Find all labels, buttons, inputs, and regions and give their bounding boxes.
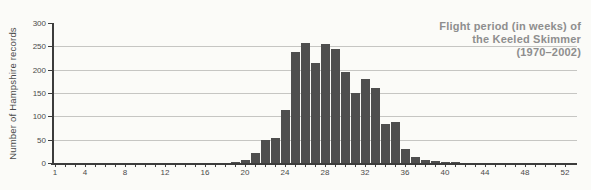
x-tick-13 bbox=[175, 165, 176, 168]
x-tick-15 bbox=[195, 165, 196, 168]
y-tick-200 bbox=[48, 70, 52, 71]
x-tick-label-32: 32 bbox=[355, 168, 375, 177]
x-tick-label-28: 28 bbox=[315, 168, 335, 177]
x-tick-44 bbox=[485, 165, 486, 168]
y-tick-300 bbox=[48, 23, 52, 24]
x-tick-14 bbox=[185, 165, 186, 168]
y-axis-title: Number of Hampshire records bbox=[7, 24, 20, 164]
x-tick-label-48: 48 bbox=[515, 168, 535, 177]
x-tick-43 bbox=[475, 165, 476, 168]
x-tick-8 bbox=[125, 165, 126, 168]
bar-week-31 bbox=[351, 93, 360, 163]
x-tick-46 bbox=[505, 165, 506, 168]
x-tick-6 bbox=[105, 165, 106, 168]
y-tick-label-0: 0 bbox=[24, 159, 46, 168]
x-tick-10 bbox=[145, 165, 146, 168]
y-axis-line bbox=[52, 23, 54, 165]
x-tick-26 bbox=[305, 165, 306, 168]
chart-title-line-3: (1970–2002) bbox=[439, 46, 581, 59]
x-tick-25 bbox=[295, 165, 296, 168]
bar-week-28 bbox=[321, 44, 330, 163]
bar-week-22 bbox=[261, 140, 270, 163]
x-tick-51 bbox=[555, 165, 556, 168]
x-tick-22 bbox=[265, 165, 266, 168]
x-tick-label-12: 12 bbox=[155, 168, 175, 177]
x-tick-31 bbox=[355, 165, 356, 168]
bar-week-25 bbox=[291, 52, 300, 163]
x-tick-28 bbox=[325, 165, 326, 168]
x-tick-18 bbox=[225, 165, 226, 168]
x-tick-52 bbox=[565, 165, 566, 168]
x-tick-label-8: 8 bbox=[115, 168, 135, 177]
bar-week-24 bbox=[281, 110, 290, 163]
x-tick-30 bbox=[345, 165, 346, 168]
x-tick-50 bbox=[545, 165, 546, 168]
x-tick-37 bbox=[415, 165, 416, 168]
bar-week-35 bbox=[391, 122, 400, 163]
x-tick-35 bbox=[395, 165, 396, 168]
x-tick-12 bbox=[165, 165, 166, 168]
x-tick-20 bbox=[245, 165, 246, 168]
x-tick-39 bbox=[435, 165, 436, 168]
bar-week-34 bbox=[381, 124, 390, 163]
x-tick-2 bbox=[65, 165, 66, 168]
bar-week-26 bbox=[301, 43, 310, 163]
bar-week-30 bbox=[341, 72, 350, 163]
x-tick-38 bbox=[425, 165, 426, 168]
flight-period-histogram-figure: Number of Hampshire records Flight perio… bbox=[0, 0, 591, 190]
x-tick-47 bbox=[515, 165, 516, 168]
y-tick-0 bbox=[48, 163, 52, 164]
x-tick-label-36: 36 bbox=[395, 168, 415, 177]
x-tick-11 bbox=[155, 165, 156, 168]
bar-week-29 bbox=[331, 49, 340, 163]
bar-week-27 bbox=[311, 63, 320, 163]
bar-week-32 bbox=[361, 79, 370, 163]
y-tick-label-250: 250 bbox=[24, 42, 46, 51]
y-tick-label-50: 50 bbox=[24, 136, 46, 145]
x-tick-9 bbox=[135, 165, 136, 168]
x-tick-33 bbox=[375, 165, 376, 168]
x-tick-16 bbox=[205, 165, 206, 168]
x-tick-27 bbox=[315, 165, 316, 168]
x-tick-label-40: 40 bbox=[435, 168, 455, 177]
x-tick-40 bbox=[445, 165, 446, 168]
x-tick-label-16: 16 bbox=[195, 168, 215, 177]
x-tick-24 bbox=[285, 165, 286, 168]
bar-week-21 bbox=[251, 153, 260, 163]
x-tick-36 bbox=[405, 165, 406, 168]
x-tick-21 bbox=[255, 165, 256, 168]
x-tick-label-24: 24 bbox=[275, 168, 295, 177]
y-tick-label-200: 200 bbox=[24, 66, 46, 75]
x-tick-label-1: 1 bbox=[45, 168, 65, 177]
chart-title-line-1: Flight period (in weeks) of bbox=[439, 20, 581, 33]
x-tick-label-44: 44 bbox=[475, 168, 495, 177]
y-tick-250 bbox=[48, 46, 52, 47]
y-tick-50 bbox=[48, 140, 52, 141]
x-tick-48 bbox=[525, 165, 526, 168]
bar-week-23 bbox=[271, 138, 280, 163]
y-tick-label-300: 300 bbox=[24, 19, 46, 28]
x-tick-label-20: 20 bbox=[235, 168, 255, 177]
x-tick-29 bbox=[335, 165, 336, 168]
x-tick-23 bbox=[275, 165, 276, 168]
y-tick-label-100: 100 bbox=[24, 112, 46, 121]
chart-title: Flight period (in weeks) of the Keeled S… bbox=[439, 20, 581, 59]
x-tick-label-52: 52 bbox=[555, 168, 575, 177]
gridline-250 bbox=[54, 46, 577, 47]
x-tick-1 bbox=[55, 165, 56, 168]
x-tick-3 bbox=[75, 165, 76, 168]
x-tick-49 bbox=[535, 165, 536, 168]
x-tick-32 bbox=[365, 165, 366, 168]
y-tick-label-150: 150 bbox=[24, 89, 46, 98]
chart-title-line-2: the Keeled Skimmer bbox=[439, 33, 581, 46]
y-tick-100 bbox=[48, 116, 52, 117]
y-tick-150 bbox=[48, 93, 52, 94]
x-tick-17 bbox=[215, 165, 216, 168]
x-tick-5 bbox=[95, 165, 96, 168]
x-tick-4 bbox=[85, 165, 86, 168]
x-tick-19 bbox=[235, 165, 236, 168]
bar-week-36 bbox=[401, 149, 410, 163]
bar-week-33 bbox=[371, 88, 380, 163]
x-tick-label-4: 4 bbox=[75, 168, 95, 177]
x-tick-41 bbox=[455, 165, 456, 168]
